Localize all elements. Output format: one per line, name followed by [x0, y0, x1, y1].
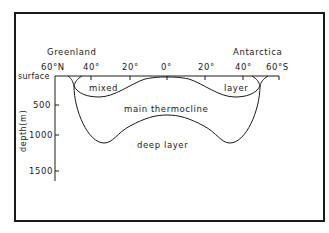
label-antarctica: Antarctica [233, 47, 282, 57]
tick-60N: 60°N [41, 62, 65, 72]
north-outcrop [68, 76, 82, 86]
tick-20S: 20° [198, 62, 215, 72]
y-tick-500: 500 [33, 100, 51, 110]
ocean-layers-diagram: Greenland Antarctica 60°N 40° 20° 0° 20°… [0, 0, 329, 233]
figure-frame [15, 13, 324, 221]
y-tick-marks [55, 105, 59, 171]
label-main-thermocline: main thermocline [124, 104, 208, 114]
x-axis-labels: 60°N 40° 20° 0° 20° 40° 60°S [41, 62, 289, 72]
label-deep-layer: deep layer [137, 140, 188, 150]
tick-20N: 20° [122, 62, 139, 72]
tick-40N: 40° [83, 62, 100, 72]
y-tick-1500: 1500 [29, 166, 53, 176]
south-outcrop [252, 76, 268, 86]
tick-0: 0° [161, 62, 172, 72]
thermocline-boundary [74, 86, 260, 143]
y-axis-label: depth(m) [19, 110, 28, 152]
y-tick-1000: 1000 [29, 130, 53, 140]
label-mixed: mixed [89, 83, 118, 93]
label-greenland: Greenland [47, 47, 97, 57]
label-surface: surface [18, 72, 50, 81]
label-layer: layer [224, 83, 248, 93]
tick-60S: 60°S [266, 62, 289, 72]
tick-40S: 40° [235, 62, 252, 72]
